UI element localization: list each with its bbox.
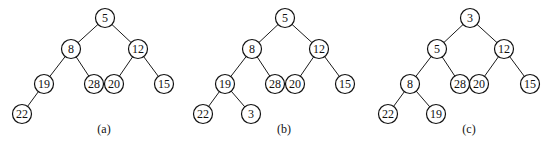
tree-b: 581219282015223(b) <box>194 9 355 137</box>
node-label: 20 <box>473 77 485 91</box>
tree-node: 22 <box>379 105 398 124</box>
node-label: 15 <box>339 77 351 91</box>
tree-node: 22 <box>13 105 32 124</box>
edge-5-8 <box>259 25 278 43</box>
node-label: 22 <box>382 107 394 121</box>
node-label: 12 <box>498 42 510 56</box>
node-label: 15 <box>524 77 536 91</box>
node-label: 28 <box>88 77 100 91</box>
edge-5-12 <box>112 25 131 43</box>
edge-3-12 <box>477 24 497 42</box>
node-label: 20 <box>108 77 120 91</box>
node-label: 28 <box>454 77 466 91</box>
tree-node: 20 <box>286 75 305 94</box>
tree-node: 19 <box>35 75 54 94</box>
tree-node: 8 <box>243 40 262 59</box>
node-label: 3 <box>248 107 254 121</box>
node-label: 22 <box>16 107 28 121</box>
tree-a: 58121928201522(a) <box>13 9 174 137</box>
tree-node: 15 <box>155 75 174 94</box>
node-label: 20 <box>289 77 301 91</box>
edge-12-15 <box>325 57 340 77</box>
tree-node: 15 <box>336 75 355 94</box>
tree-node: 5 <box>428 40 447 59</box>
edge-5-28 <box>442 57 455 76</box>
tree-node: 28 <box>266 75 285 94</box>
edge-8-28 <box>257 57 270 76</box>
edge-12-15 <box>144 57 159 77</box>
edge-12-20 <box>119 57 132 76</box>
tree-node: 12 <box>129 40 148 59</box>
caption-c: (c) <box>462 122 475 136</box>
edge-3-5 <box>444 25 463 43</box>
tree-c: 351282820152219(c) <box>379 9 540 137</box>
edge-8-19 <box>50 57 65 77</box>
tree-node: 22 <box>194 105 213 124</box>
node-label: 12 <box>132 42 144 56</box>
edge-12-20 <box>300 57 313 76</box>
caption-b: (b) <box>277 122 291 136</box>
edge-19-22 <box>28 92 39 107</box>
node-label: 5 <box>434 42 440 56</box>
edge-8-28 <box>76 57 89 76</box>
tree-node: 8 <box>401 75 420 94</box>
edge-8-22 <box>394 92 405 107</box>
tree-node: 20 <box>470 75 489 94</box>
tree-node: 15 <box>521 75 540 94</box>
caption-a: (a) <box>97 122 110 136</box>
node-label: 22 <box>197 107 209 121</box>
node-label: 8 <box>249 42 255 56</box>
edge-5-8 <box>78 24 98 42</box>
tree-node: 19 <box>216 75 235 94</box>
node-label: 12 <box>313 42 325 56</box>
edge-5-12 <box>292 24 312 42</box>
node-label: 19 <box>38 77 50 91</box>
tree-node: 19 <box>427 105 446 124</box>
edge-12-15 <box>510 57 525 77</box>
tree-node: 28 <box>85 75 104 94</box>
edge-19-22 <box>209 92 220 107</box>
tree-node: 3 <box>461 9 480 28</box>
tree-node: 12 <box>310 40 329 59</box>
tree-node: 12 <box>495 40 514 59</box>
node-label: 5 <box>102 11 108 25</box>
node-label: 15 <box>158 77 170 91</box>
node-label: 8 <box>407 77 413 91</box>
node-label: 28 <box>269 77 281 91</box>
edge-19-3 <box>231 91 245 107</box>
tree-node: 20 <box>105 75 124 94</box>
edge-8-19 <box>231 57 246 77</box>
edge-8-19 <box>416 91 430 107</box>
node-label: 19 <box>430 107 442 121</box>
node-label: 8 <box>68 42 74 56</box>
tree-node: 28 <box>451 75 470 94</box>
edge-5-8 <box>416 57 431 77</box>
node-label: 5 <box>282 11 288 25</box>
tree-node: 8 <box>62 40 81 59</box>
heap-diagram: 58121928201522(a) 581219282015223(b) 351… <box>0 0 549 149</box>
tree-node: 5 <box>96 9 115 28</box>
tree-node: 3 <box>242 105 261 124</box>
edge-12-20 <box>485 57 499 77</box>
node-label: 19 <box>219 77 231 91</box>
node-label: 3 <box>467 11 473 25</box>
tree-node: 5 <box>276 9 295 28</box>
